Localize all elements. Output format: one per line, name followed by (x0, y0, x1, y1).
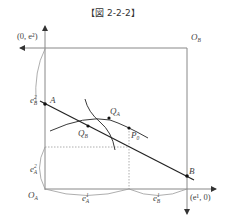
point-qa-marker (107, 116, 110, 119)
point-b-label: B (189, 166, 195, 176)
point-qa-label: QA (110, 106, 121, 117)
edgeworth-box-diagram: 【図 2-2-2】 (0, e²) (e¹, 0) OB OA A B QB Q… (0, 0, 227, 221)
figure-title: 【図 2-2-2】 (86, 8, 140, 18)
e1-a-label: e1A (82, 192, 90, 204)
bottom-right-coord-label: (e¹, 0) (190, 192, 211, 202)
point-qb-label: QB (78, 128, 89, 139)
top-left-coord-label: (0, e²) (17, 31, 38, 41)
point-p0-label: P0 (130, 130, 140, 141)
point-qb-marker (86, 124, 89, 127)
point-a-label: A (49, 95, 56, 105)
e1-b-label: e1B (153, 192, 161, 204)
origin-a-label: OA (28, 190, 39, 201)
e2-a-label: e2A (30, 163, 38, 175)
brace-e2-b (36, 49, 45, 103)
origin-b-label: OB (191, 32, 202, 43)
brace-e2-a (40, 147, 46, 189)
point-a-marker (43, 102, 47, 106)
e2-b-label: e2B (30, 94, 38, 106)
